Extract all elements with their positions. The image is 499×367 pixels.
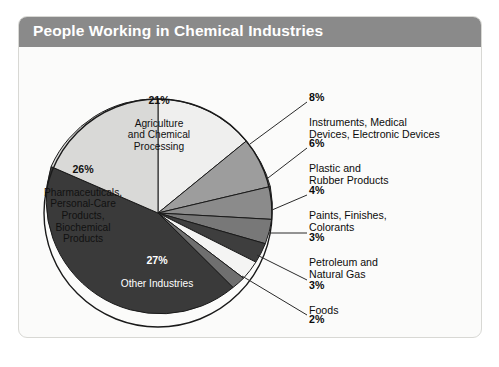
page-title: People Working in Chemical Industries <box>33 22 323 40</box>
pie-chart: 21% Agriculture and Chemical Processing … <box>19 47 482 338</box>
callout-label-foods-percent: 3% <box>309 279 482 291</box>
leader-line-soaps <box>242 276 307 315</box>
pie-label-other-industries-percent: 27% <box>146 254 167 266</box>
chart-title-bar: People Working in Chemical Industries <box>19 17 482 47</box>
pie-label-agriculture: 21% Agriculture and Chemical Processing <box>107 83 211 153</box>
callout-label-soaps-percent: 2% <box>309 313 482 325</box>
pie-label-pharmaceuticals-percent: 26% <box>72 163 93 175</box>
callout-label-paints-percent: 4% <box>309 184 482 196</box>
chart-card: People Working in Chemical Industries <box>18 16 482 338</box>
leader-line-foods <box>257 255 307 280</box>
pie-label-agriculture-text: Agriculture and Chemical Processing <box>128 118 190 152</box>
leader-line-instruments <box>250 102 307 144</box>
leader-line-plastic <box>268 148 307 178</box>
leader-line-paints <box>272 195 307 210</box>
pie-label-pharmaceuticals-text: Pharmaceuticals, Personal-Care Products,… <box>44 187 122 244</box>
pie-label-other-industries-text: Other Industries <box>121 278 193 289</box>
pie-label-other-industries: 27% Other Industries <box>94 243 220 289</box>
callout-label-petroleum-percent: 3% <box>309 231 482 243</box>
callout-label-plastic-percent: 6% <box>309 137 482 149</box>
pie-label-agriculture-percent: 21% <box>148 94 169 106</box>
callout-label-soaps: 2% Soaps and Detergents <box>309 301 482 338</box>
pie-label-pharmaceuticals: 26% Pharmaceuticals, Personal-Care Produ… <box>24 152 142 245</box>
callout-label-instruments-percent: 8% <box>309 91 482 103</box>
